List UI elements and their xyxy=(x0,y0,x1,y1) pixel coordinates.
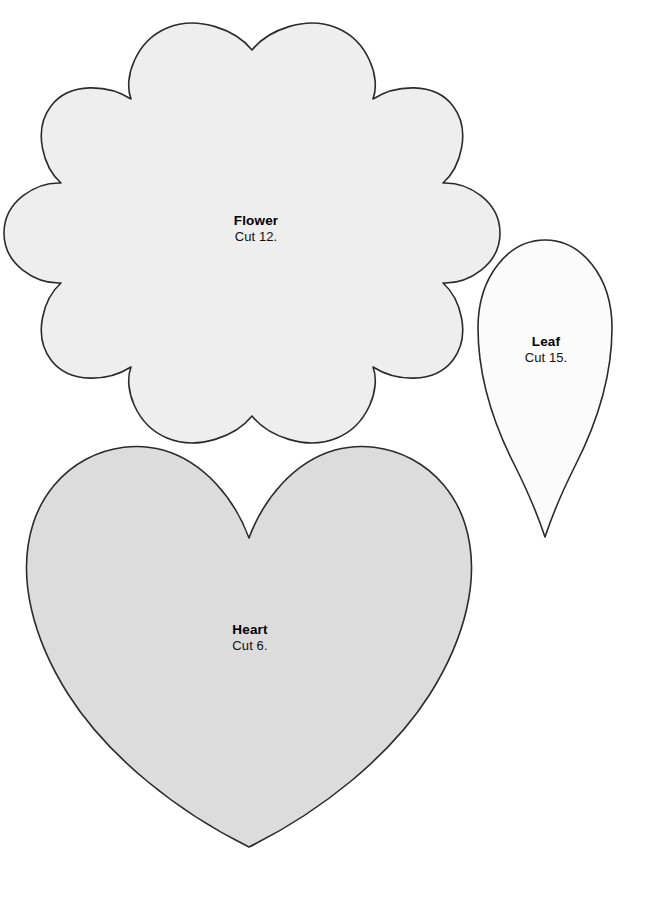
leaf-shape xyxy=(478,240,612,537)
flower-label-title: Flower xyxy=(196,213,316,229)
flower-label: Flower Cut 12. xyxy=(196,213,316,245)
flower-label-count: Cut 12. xyxy=(196,229,316,245)
heart-label: Heart Cut 6. xyxy=(190,622,310,654)
leaf-label: Leaf Cut 15. xyxy=(486,334,606,366)
leaf-label-count: Cut 15. xyxy=(486,350,606,366)
heart-label-title: Heart xyxy=(190,622,310,638)
leaf-label-title: Leaf xyxy=(486,334,606,350)
template-sheet: Flower Cut 12. Leaf Cut 15. Heart Cut 6. xyxy=(0,0,653,905)
heart-label-count: Cut 6. xyxy=(190,638,310,654)
shapes-canvas xyxy=(0,0,653,905)
